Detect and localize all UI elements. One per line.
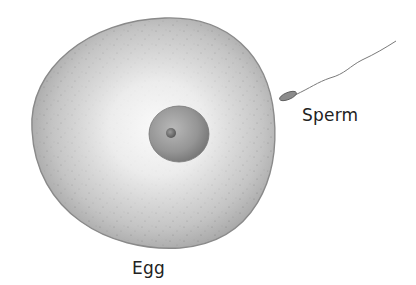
sperm-label: Sperm bbox=[302, 105, 358, 125]
nucleus bbox=[149, 106, 209, 162]
diagram-canvas bbox=[0, 0, 416, 285]
nucleolus bbox=[166, 128, 176, 138]
egg-label: Egg bbox=[132, 258, 165, 278]
sperm-tail bbox=[295, 41, 396, 95]
sperm-head bbox=[278, 89, 297, 102]
egg-sperm-diagram: Sperm Egg bbox=[0, 0, 416, 285]
sperm bbox=[278, 41, 396, 103]
